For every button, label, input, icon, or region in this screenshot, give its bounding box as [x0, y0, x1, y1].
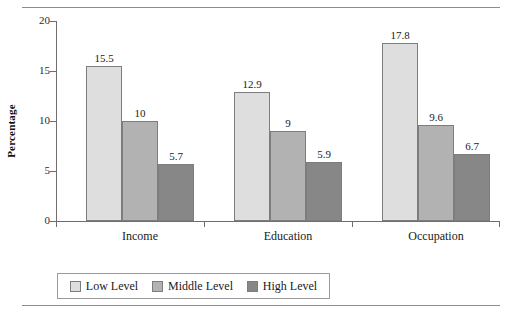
x-axis-label-education: Education: [234, 229, 342, 243]
bar-value-income-middle: 10: [122, 107, 158, 119]
y-tick-5: 5: [16, 165, 50, 176]
legend-swatch-middle-level: [152, 281, 163, 292]
legend-label-high-level: High Level: [263, 280, 317, 293]
y-tick-0-label: 0: [22, 215, 50, 226]
legend-item-high-level[interactable]: High Level: [245, 280, 319, 293]
plot-area: 15.5 10 5.7 12.9 9 5.9 17.8 9.6 6.7: [56, 21, 500, 221]
bar-value-income-low: 15.5: [86, 52, 122, 64]
bar-value-education-high: 5.9: [306, 148, 342, 160]
x-axis-label-income: Income: [86, 229, 194, 243]
bar-value-income-high: 5.7: [158, 150, 194, 162]
bar-value-occupation-low: 17.8: [382, 29, 418, 41]
y-tick-10-label: 10: [22, 115, 50, 126]
legend-item-middle-level[interactable]: Middle Level: [150, 280, 235, 293]
legend-label-middle-level: Middle Level: [168, 280, 233, 293]
bar-income-middle[interactable]: [122, 121, 158, 221]
x-tick-1: [204, 222, 205, 227]
y-tick-0: 0: [16, 215, 50, 226]
bar-value-occupation-middle: 9.6: [418, 111, 454, 123]
x-tick-2: [352, 222, 353, 227]
x-axis-label-occupation: Occupation: [382, 229, 490, 243]
bar-value-education-middle: 9: [270, 117, 306, 129]
y-tick-5-label: 5: [22, 165, 50, 176]
y-axis-title: Percentage: [4, 86, 18, 176]
bar-education-low[interactable]: [234, 92, 270, 221]
bar-income-high[interactable]: [158, 164, 194, 221]
bottom-divider-rule: [22, 305, 500, 306]
bar-chart-figure: Percentage 20 15 10 5 0 15.5 10 5.7: [0, 0, 515, 313]
top-divider-rule: [22, 7, 500, 8]
y-tick-20-label: 20: [22, 15, 50, 26]
y-tick-20: 20: [16, 15, 50, 26]
bar-occupation-middle[interactable]: [418, 125, 454, 221]
y-axis-title-label: Percentage: [5, 104, 17, 158]
legend-swatch-low-level: [70, 281, 81, 292]
x-axis-line: [56, 221, 500, 222]
y-tick-15-label: 15: [22, 65, 50, 76]
bar-education-high[interactable]: [306, 162, 342, 221]
legend-label-low-level: Low Level: [86, 280, 138, 293]
bar-value-education-low: 12.9: [234, 78, 270, 90]
x-tick-end: [499, 222, 500, 227]
bar-income-low[interactable]: [86, 66, 122, 221]
x-tick-start: [56, 222, 57, 227]
legend-item-low-level[interactable]: Low Level: [68, 280, 140, 293]
bar-value-occupation-high: 6.7: [454, 140, 490, 152]
legend-swatch-high-level: [247, 281, 258, 292]
bar-occupation-low[interactable]: [382, 43, 418, 221]
bar-education-middle[interactable]: [270, 131, 306, 221]
chart-legend: Low Level Middle Level High Level: [57, 273, 330, 299]
y-tick-10: 10: [16, 115, 50, 126]
bar-occupation-high[interactable]: [454, 154, 490, 221]
y-tick-15: 15: [16, 65, 50, 76]
